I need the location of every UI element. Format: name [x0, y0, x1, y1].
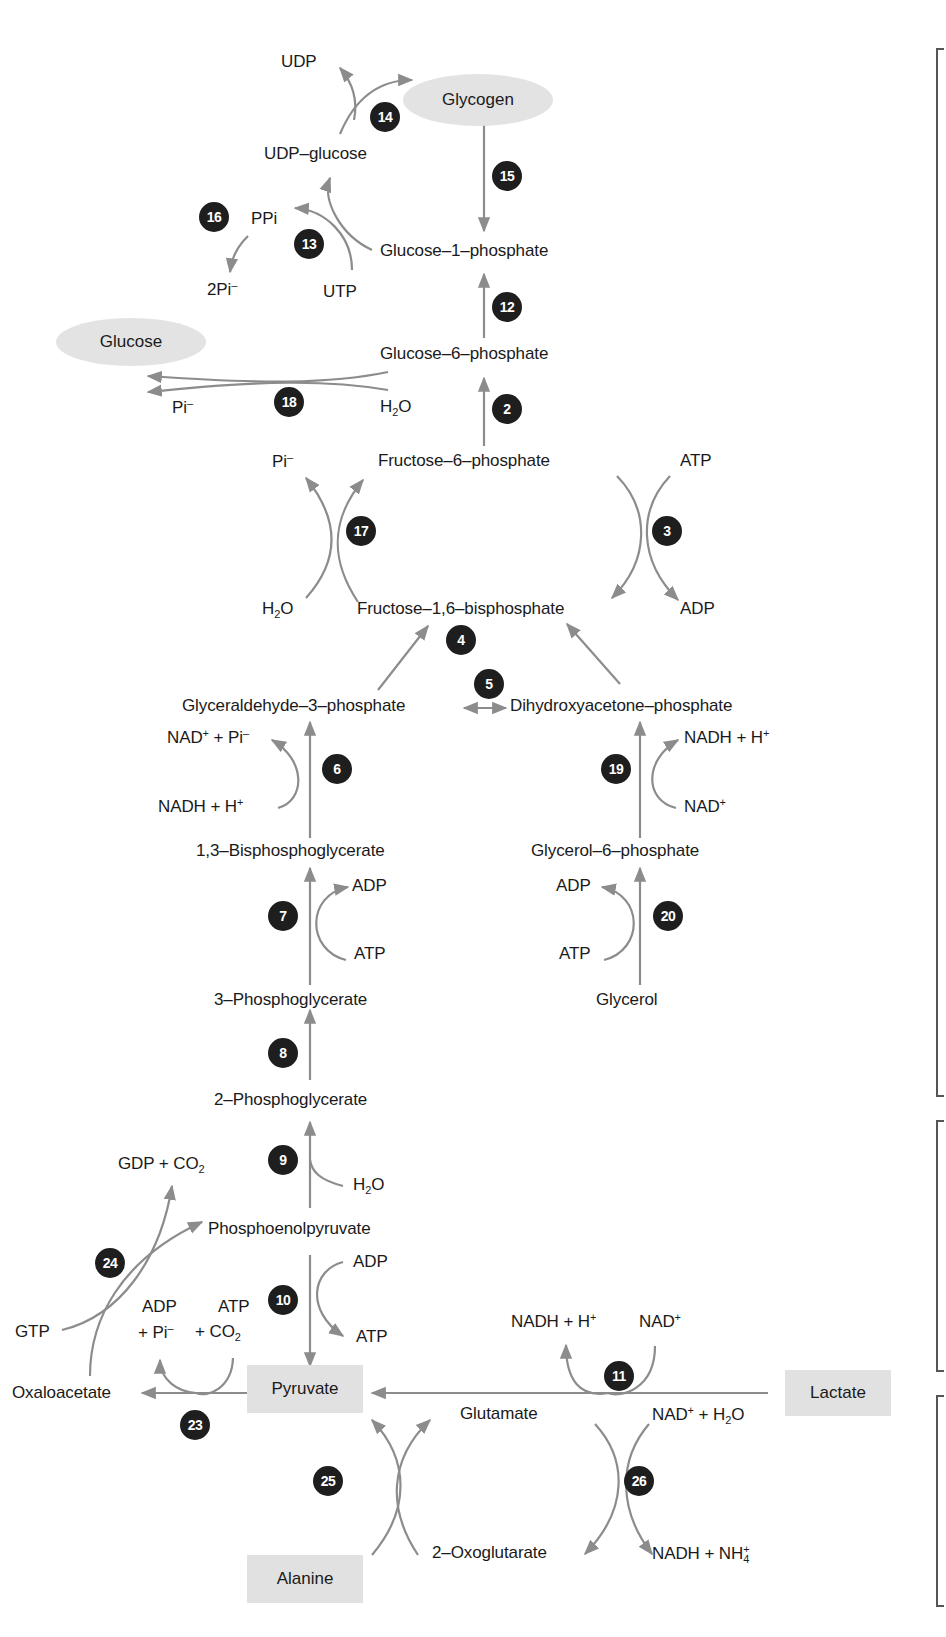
h2o-o: O — [280, 599, 293, 618]
metabolite-2-phosphoglycerate: 2–Phosphoglycerate — [214, 1091, 367, 1108]
charge-plus: + — [763, 727, 769, 739]
o-text: O — [731, 1405, 744, 1424]
arrow-step3-a — [612, 476, 641, 598]
co-text: + CO — [195, 1322, 235, 1341]
h2o-h: H — [380, 397, 392, 416]
h2o-o: O — [398, 397, 411, 416]
cofactor-adp-3: ADP — [680, 600, 715, 617]
metabolite-fructose-1-6-bisphosphate: Fructose–1,6–bisphosphate — [357, 600, 564, 617]
h2o-h: H — [353, 1175, 365, 1194]
cofactor-h2o-9: H2O — [353, 1176, 384, 1196]
step-badge-24: 24 — [95, 1248, 125, 1278]
arrow-step9-side — [310, 1160, 343, 1186]
metabolite-glucose-1-phosphate: Glucose–1–phosphate — [380, 242, 548, 259]
step-badge-6: 6 — [322, 754, 352, 784]
cofactor-nadh-19: NADH + H+ — [684, 728, 769, 746]
arrow-step19-side — [652, 740, 678, 808]
metabolite-oxaloacetate: Oxaloacetate — [12, 1384, 111, 1401]
cofactor-adp-23: ADP — [142, 1298, 177, 1315]
cofactor-utp: UTP — [323, 283, 357, 300]
step-badge-15: 15 — [492, 161, 522, 191]
arrow-step4-dhap — [567, 624, 620, 684]
cofactor-gdp-co2: GDP + CO2 — [118, 1155, 205, 1175]
cofactor-pi-18-text: Pi — [172, 398, 187, 417]
nadh-text: NADH + H — [511, 1312, 590, 1331]
cofactor-nad-11: NAD+ — [639, 1312, 681, 1330]
nadh-text: NADH + H — [684, 728, 763, 747]
cofactor-nad-h2o-26: NAD+ + H2O — [652, 1405, 744, 1426]
arrow-step25-b — [397, 1420, 430, 1555]
cofactor-gtp: GTP — [15, 1323, 50, 1340]
cofactor-pi-17: Pi– — [272, 452, 293, 470]
arrow-step20-side — [602, 887, 634, 960]
arrow-step18-b — [148, 383, 388, 392]
arrow-step7-side — [316, 887, 348, 960]
gdp-co-text: GDP + CO — [118, 1154, 199, 1173]
cofactor-nadh-nh4-26: NADH + NH4+ — [652, 1544, 750, 1565]
step-badge-10: 10 — [268, 1285, 298, 1315]
step-badge-8: 8 — [268, 1038, 298, 1068]
nad-text: NAD — [639, 1312, 675, 1331]
cofactor-nad-19: NAD+ — [684, 797, 726, 815]
step-badge-9: 9 — [268, 1145, 298, 1175]
cofactor-nadh-11: NADH + H+ — [511, 1312, 596, 1330]
co2-sub: 2 — [235, 1331, 241, 1343]
cofactor-pi-23: + Pi– — [138, 1323, 173, 1341]
cofactor-atp-7: ATP — [354, 945, 386, 962]
metabolite-3-phosphoglycerate: 3–Phosphoglycerate — [214, 991, 367, 1008]
step-badge-26: 26 — [624, 1466, 654, 1496]
charge-plus: + — [237, 796, 243, 808]
cofactor-2pi-text: 2Pi — [207, 280, 231, 299]
cofactor-pi-18: Pi– — [172, 398, 193, 416]
cofactor-atp-23: ATP — [218, 1298, 250, 1315]
charge-minus: – — [287, 451, 293, 463]
step-badge-16: 16 — [199, 202, 229, 232]
charge-plus: + — [590, 1311, 596, 1323]
step-badge-4: 4 — [446, 625, 476, 655]
cofactor-udp: UDP — [281, 53, 317, 70]
arrow-step4-gap — [378, 626, 428, 690]
metabolite-glucose-6-phosphate: Glucose–6–phosphate — [380, 345, 548, 362]
node-glucose-label: Glucose — [100, 332, 162, 352]
step-badge-3: 3 — [652, 516, 682, 546]
cofactor-nad-pi-6: NAD+ + Pi– — [167, 728, 249, 746]
arrow-step23-side — [160, 1358, 233, 1394]
metabolite-2-oxoglutarate: 2–Oxoglutarate — [432, 1544, 547, 1561]
arrow-step16 — [230, 236, 248, 272]
step-badge-17: 17 — [346, 516, 376, 546]
metabolite-phosphoenolpyruvate: Phosphoenolpyruvate — [208, 1220, 371, 1237]
charge-minus: – — [231, 279, 237, 291]
cofactor-h2o-17: H2O — [262, 600, 293, 620]
metabolite-glycerol-6-phosphate: Glycerol–6–phosphate — [531, 842, 699, 859]
section-bracket-1 — [936, 48, 944, 1097]
cofactor-atp-3: ATP — [680, 452, 712, 469]
nadh-text: NADH + H — [158, 797, 237, 816]
node-glycogen: Glycogen — [403, 74, 553, 126]
step-badge-11: 11 — [604, 1361, 634, 1391]
metabolite-fructose-6-phosphate: Fructose–6–phosphate — [378, 452, 550, 469]
section-bracket-3 — [936, 1395, 944, 1607]
node-lactate: Lactate — [785, 1370, 891, 1416]
node-lactate-label: Lactate — [810, 1383, 866, 1403]
h2o-o: O — [371, 1175, 384, 1194]
metabolite-1-3-bisphosphoglycerate: 1,3–Bisphosphoglycerate — [196, 842, 385, 859]
arrow-step26-a — [585, 1424, 619, 1554]
metabolite-dihydroxyacetone-phosphate: Dihydroxyacetone–phosphate — [510, 697, 732, 714]
cofactor-2pi: 2Pi– — [207, 280, 237, 298]
arrow-step6-side — [272, 740, 298, 808]
cofactor-ppi: PPi — [251, 210, 277, 227]
charge-plus: + — [743, 1543, 749, 1555]
step-badge-18: 18 — [274, 387, 304, 417]
node-glycogen-label: Glycogen — [442, 90, 514, 110]
arrow-step10-side — [317, 1262, 343, 1336]
nadh-nh-text: NADH + NH — [652, 1544, 743, 1563]
nad-text: NAD — [167, 728, 203, 747]
node-alanine: Alanine — [247, 1555, 363, 1603]
cofactor-atp-20: ATP — [559, 945, 591, 962]
step-badge-7: 7 — [268, 901, 298, 931]
metabolite-glutamate: Glutamate — [460, 1405, 538, 1422]
node-alanine-label: Alanine — [277, 1569, 334, 1589]
cofactor-co2-23: + CO2 — [195, 1323, 241, 1343]
cofactor-adp-10: ADP — [353, 1253, 388, 1270]
cofactor-adp-7: ADP — [352, 877, 387, 894]
